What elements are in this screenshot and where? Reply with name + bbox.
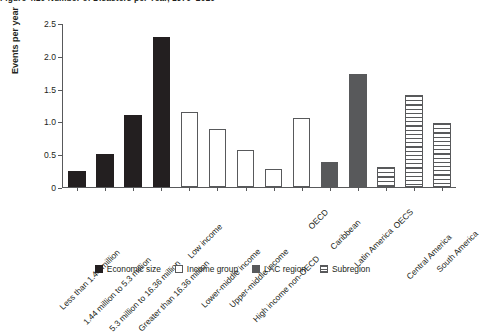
y-axis-tick-label: 1.0 <box>44 117 56 127</box>
bar-slot <box>147 24 175 187</box>
y-axis-tick-label: 1.5 <box>44 85 56 95</box>
chart-plot-area: Events per year 00.51.01.52.02.5 <box>62 24 456 188</box>
bar[interactable] <box>209 129 226 187</box>
legend-item-income[interactable]: Income group <box>175 264 238 274</box>
y-axis-tick <box>58 122 62 123</box>
bar-slot <box>260 24 288 187</box>
legend-swatch-icon <box>175 265 183 273</box>
y-axis-tick <box>58 57 62 58</box>
legend-item-economic[interactable]: Economic size <box>95 264 161 274</box>
bar[interactable] <box>349 74 366 187</box>
bar[interactable] <box>433 123 450 187</box>
bar[interactable] <box>68 171 85 187</box>
figure-title: Figure 4.10 Number of Disasters per Year… <box>0 0 215 3</box>
bar-slot <box>400 24 428 187</box>
bar-series-container <box>63 24 456 187</box>
bar[interactable] <box>377 167 394 187</box>
x-axis-labels: Less than 1.44 million1.44 million to 5.… <box>63 190 457 256</box>
legend-item-subregion[interactable]: Subregion <box>320 264 370 274</box>
chart-legend: Economic sizeIncome groupLAC regionSubre… <box>0 264 465 274</box>
bar-slot <box>91 24 119 187</box>
bar[interactable] <box>321 162 338 187</box>
legend-swatch-icon <box>320 265 328 273</box>
y-axis-tick <box>58 24 62 25</box>
legend-item-lac[interactable]: LAC region <box>252 264 306 274</box>
x-axis-line <box>62 187 456 188</box>
y-axis-title: Events per year <box>10 7 20 74</box>
bar[interactable] <box>405 95 422 187</box>
y-axis-tick-label: 2.0 <box>44 52 56 62</box>
bar-slot <box>344 24 372 187</box>
legend-label: Income group <box>187 264 238 274</box>
bar-slot <box>119 24 147 187</box>
bar[interactable] <box>96 154 113 187</box>
bar-slot <box>316 24 344 187</box>
bar[interactable] <box>153 37 170 187</box>
legend-swatch-icon <box>252 265 260 273</box>
bar[interactable] <box>265 169 282 187</box>
bar[interactable] <box>124 115 141 187</box>
y-axis-tick-label: 0 <box>51 183 56 193</box>
x-axis-label: OECD <box>323 190 347 214</box>
y-axis-tick <box>58 90 62 91</box>
y-axis-tick <box>58 155 62 156</box>
legend-label: Subregion <box>332 264 370 274</box>
y-axis-tick-label: 2.5 <box>44 19 56 29</box>
bar-slot <box>428 24 456 187</box>
bar-slot <box>288 24 316 187</box>
bar[interactable] <box>293 118 310 187</box>
y-axis-tick-label: 0.5 <box>44 150 56 160</box>
y-axis-tick <box>58 188 62 189</box>
legend-swatch-icon <box>95 265 103 273</box>
legend-label: Economic size <box>107 264 161 274</box>
bar-slot <box>231 24 259 187</box>
legend-label: LAC region <box>264 264 306 274</box>
x-axis-label: OECS <box>408 190 432 214</box>
bar[interactable] <box>181 112 198 187</box>
bar-slot <box>175 24 203 187</box>
bar-slot <box>203 24 231 187</box>
bar-slot <box>63 24 91 187</box>
bar[interactable] <box>237 150 254 187</box>
bar-slot <box>372 24 400 187</box>
